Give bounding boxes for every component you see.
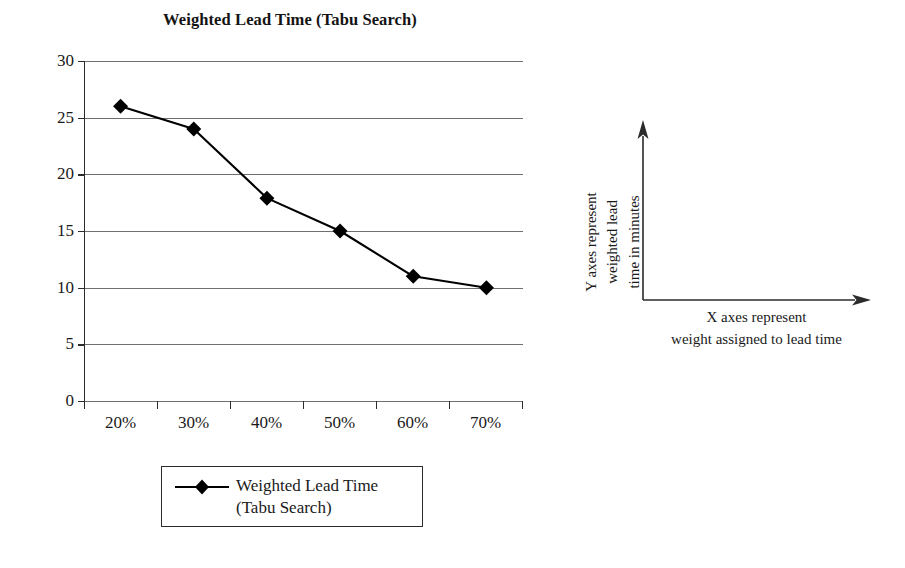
annotation-x-line2: weight assigned to lead time — [671, 331, 842, 347]
annotation-x-line1: X axes represent — [707, 309, 807, 325]
annotation-y-line2: weighted lead — [604, 200, 620, 284]
annotation-y-line1: Y axes represent — [583, 192, 599, 291]
annotation-x-label: X axes represent weight assigned to lead… — [634, 307, 879, 351]
annotation-axes — [0, 0, 905, 568]
annotation-y-label: Y axes represent weighted lead time in m… — [578, 136, 648, 312]
annotation-y-line3: time in minutes — [626, 195, 642, 288]
annotation-y-label-text: Y axes represent weighted lead time in m… — [581, 154, 645, 330]
